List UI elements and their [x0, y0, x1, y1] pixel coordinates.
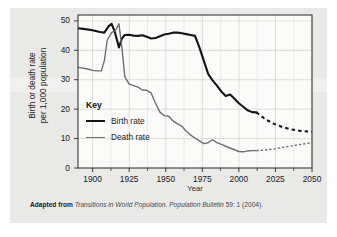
x-tick-label-2050: 2050: [292, 174, 332, 184]
legend-title: Key: [86, 100, 150, 110]
legend-label-death-rate: Death rate: [111, 132, 150, 142]
x-axis-title: Year: [78, 184, 312, 193]
x-tick-label-1975: 1975: [182, 174, 222, 184]
source-caption: Adapted from Transitions in World Popula…: [30, 201, 320, 208]
legend-item-death-rate: Death rate: [86, 132, 150, 142]
y-tick-label-30: 30: [48, 74, 70, 84]
y-tick-label-40: 40: [48, 45, 70, 55]
y-tick-label-50: 50: [48, 15, 70, 25]
caption-work: Transitions in World Population.: [75, 201, 168, 208]
chart-legend: Key Birth rate Death rate: [86, 100, 150, 142]
x-tick-label-1900: 1900: [73, 174, 113, 184]
legend-swatch-death-rate: [86, 137, 105, 138]
legend-swatch-birth-rate: [86, 120, 105, 122]
x-tick-label-1925: 1925: [109, 174, 149, 184]
legend-item-birth-rate: Birth rate: [86, 116, 150, 126]
y-tick-label-10: 10: [48, 133, 70, 143]
caption-publication: Population Bulletin: [169, 201, 224, 208]
x-tick-label-1950: 1950: [146, 174, 186, 184]
y-tick-label-20: 20: [48, 104, 70, 114]
y-tick-label-0: 0: [48, 163, 70, 173]
x-tick-label-2025: 2025: [255, 174, 295, 184]
caption-volume: 59: 1 (2004).: [226, 201, 263, 208]
caption-lead: Adapted from: [30, 201, 73, 208]
x-tick-label-2000: 2000: [219, 174, 259, 184]
legend-label-birth-rate: Birth rate: [111, 116, 145, 126]
